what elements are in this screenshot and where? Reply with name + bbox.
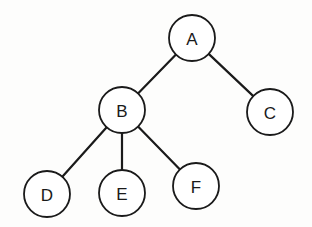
node-label: F (191, 178, 201, 197)
node-b: B (99, 87, 145, 133)
node-f: F (173, 163, 219, 209)
nodes-layer: ABCDEF (24, 15, 293, 217)
node-label: A (186, 30, 198, 49)
node-label: B (116, 102, 127, 121)
node-c: C (247, 89, 293, 135)
edge-a-c (209, 54, 254, 96)
node-e: E (99, 170, 145, 216)
edge-a-b (138, 54, 176, 93)
edges-layer (62, 54, 253, 177)
tree-diagram: ABCDEF (0, 0, 312, 227)
edge-b-d (62, 127, 106, 177)
node-d: D (24, 171, 70, 217)
node-label: E (116, 185, 127, 204)
edge-b-f (138, 126, 180, 169)
node-label: C (264, 104, 276, 123)
node-a: A (169, 15, 215, 61)
node-label: D (41, 186, 53, 205)
